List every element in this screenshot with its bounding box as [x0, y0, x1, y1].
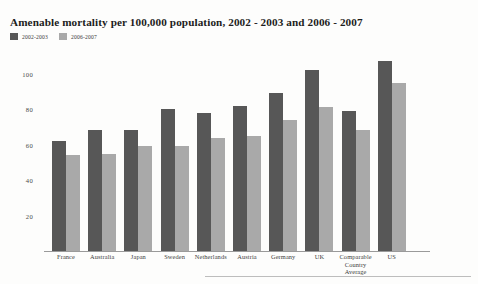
bar: [283, 120, 297, 251]
y-tick-label: 100: [22, 70, 33, 77]
bar-group: [124, 56, 152, 251]
y-tick-label: 40: [26, 177, 33, 184]
plot-area: [44, 56, 436, 251]
chart-title: Amenable mortality per 100,000 populatio…: [10, 16, 363, 28]
legend-swatch-icon: [10, 33, 18, 40]
bar: [161, 109, 175, 251]
bar: [211, 138, 225, 251]
legend-label: 2006-2007: [71, 34, 97, 40]
bar-group: [342, 56, 370, 251]
bar-group: [233, 56, 261, 251]
bar-group: [161, 56, 189, 251]
amenable-mortality-bar-chart: Amenable mortality per 100,000 populatio…: [0, 0, 478, 284]
bar: [392, 83, 406, 251]
x-axis: FranceAustraliaJapanSwedenNetherlandsAus…: [44, 253, 436, 283]
legend-label: 2002-2003: [22, 34, 48, 40]
footer-rule: [205, 276, 471, 277]
chart-legend: 2002-20032006-2007: [10, 33, 97, 40]
bar: [66, 155, 80, 251]
x-tick-label: Sweden: [155, 253, 195, 261]
bar: [356, 130, 370, 251]
x-tick-label: Australia: [82, 253, 122, 261]
bar: [247, 136, 261, 251]
bar: [138, 146, 152, 251]
y-tick-label: 60: [26, 141, 33, 148]
bar: [88, 130, 102, 251]
bar: [52, 141, 66, 251]
x-tick-label: France: [46, 253, 86, 261]
bar: [269, 93, 283, 251]
x-tick-label: Japan: [118, 253, 158, 261]
x-tick-label: Netherlands: [191, 253, 231, 261]
legend-swatch-icon: [59, 33, 67, 40]
bar: [319, 107, 333, 251]
legend-entry: 2002-2003: [10, 33, 48, 40]
bar: [102, 154, 116, 252]
bar-group: [88, 56, 116, 251]
x-axis-baseline: [44, 251, 430, 252]
x-tick-label: Austria: [227, 253, 267, 261]
y-axis: 20406080100: [0, 56, 42, 256]
bar: [124, 130, 138, 251]
y-tick-label: 20: [26, 212, 33, 219]
bar-group: [52, 56, 80, 251]
bar-group: [197, 56, 225, 251]
bar-group: [378, 56, 406, 251]
x-tick-label: US: [372, 253, 412, 261]
bar: [305, 70, 319, 251]
y-tick-label: 80: [26, 106, 33, 113]
x-tick-label: Germany: [263, 253, 303, 261]
bar: [197, 113, 211, 251]
bar-group: [305, 56, 333, 251]
bar: [233, 106, 247, 251]
bar: [175, 146, 189, 251]
bar: [342, 111, 356, 251]
legend-entry: 2006-2007: [59, 33, 97, 40]
bar: [378, 61, 392, 251]
bar-group: [269, 56, 297, 251]
x-tick-label: Comparable Country Average: [336, 253, 376, 276]
x-tick-label: UK: [299, 253, 339, 261]
